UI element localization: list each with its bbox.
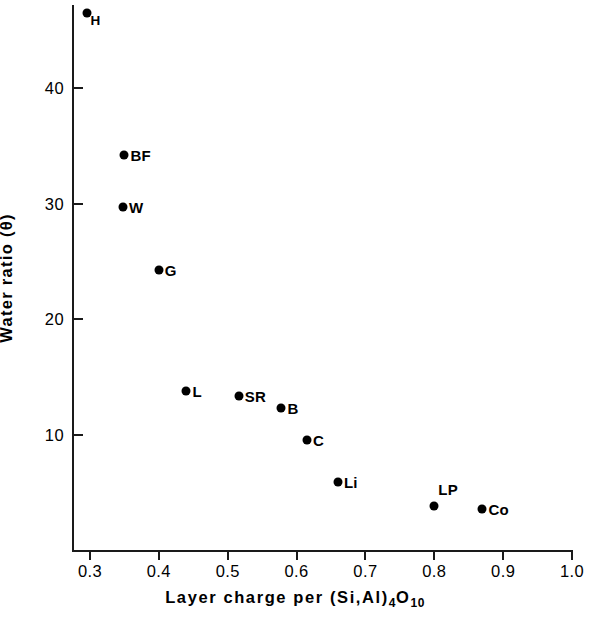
x-tick-mark (364, 551, 366, 560)
data-point-label: Li (344, 474, 358, 491)
data-point-label: G (165, 262, 177, 279)
data-point-marker (182, 387, 191, 396)
x-tick-mark (158, 551, 160, 560)
data-point-marker (154, 265, 163, 274)
data-point-label: C (313, 432, 324, 449)
data-point-label: H (91, 13, 101, 28)
data-point-marker (234, 391, 243, 400)
data-point-label: LP (438, 481, 458, 498)
y-tick-mark (74, 87, 83, 89)
data-point-label: BF (130, 147, 151, 164)
x-tick-label: 1.0 (560, 562, 584, 581)
data-point-label: SR (245, 388, 266, 405)
data-point-label: Co (488, 501, 509, 518)
data-point-marker (478, 505, 487, 514)
data-point-marker (119, 203, 128, 212)
x-tick-mark (571, 551, 573, 560)
x-tick-label: 0.8 (422, 562, 446, 581)
x-axis-title-sub-10: 10 (410, 596, 424, 610)
x-tick-label: 0.4 (147, 562, 171, 581)
y-tick-mark (74, 203, 83, 205)
y-axis-title: Water ratio (θ) (0, 213, 16, 343)
data-point-label: L (192, 383, 201, 400)
data-point-marker (120, 151, 129, 160)
y-tick-mark (74, 318, 83, 320)
y-tick-label: 10 (45, 426, 64, 445)
x-tick-mark (433, 551, 435, 560)
y-tick-label: 40 (45, 79, 64, 98)
x-axis-title-lead: Layer charge per (Si,Al) (165, 588, 389, 606)
x-tick-mark (502, 551, 504, 560)
y-tick-mark (74, 434, 83, 436)
x-tick-label: 0.7 (353, 562, 377, 581)
x-tick-label: 0.3 (78, 562, 102, 581)
y-tick-label: 30 (45, 194, 64, 213)
x-tick-mark (227, 551, 229, 560)
x-tick-mark (296, 551, 298, 560)
data-point-label: B (287, 400, 298, 417)
scatter-plot-figure: 0.30.40.50.60.70.80.91.0 40302010 HBFWGL… (0, 0, 590, 618)
data-point-marker (302, 435, 311, 444)
data-point-label: W (129, 199, 143, 216)
x-tick-label: 0.9 (491, 562, 515, 581)
x-axis-line (72, 550, 573, 552)
data-point-marker (277, 404, 286, 413)
x-axis-title-oxygen: O (396, 588, 410, 606)
x-tick-label: 0.5 (216, 562, 240, 581)
x-tick-label: 0.6 (284, 562, 308, 581)
data-point-marker (333, 478, 342, 487)
x-tick-mark (89, 551, 91, 560)
x-axis-title: Layer charge per (Si,Al)4O10 (0, 588, 590, 607)
y-tick-label: 20 (45, 310, 64, 329)
x-axis-title-sub-4: 4 (389, 596, 396, 610)
data-point-marker (430, 501, 439, 510)
